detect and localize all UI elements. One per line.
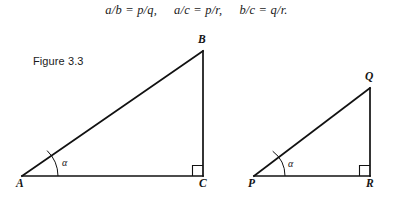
vertex-label-c: C [199,177,207,189]
vertex-label-q: Q [365,70,373,82]
vertex-label-a: A [16,177,24,189]
segment-a-to-b [22,51,203,176]
vertex-label-r: R [366,177,374,189]
triangles-drawing [0,0,393,198]
figure-diagram: a/b = p/q,a/c = p/r,b/c = q/r. Figure 3.… [0,0,393,198]
right-angle-marker-c [193,166,204,177]
angle-label-alpha-p: α [288,158,293,169]
triangle-abc-shape [22,51,203,176]
angle-label-alpha-a: α [62,157,67,168]
triangle-pqr-shape [254,88,370,176]
vertex-label-b: B [198,33,206,45]
vertex-label-p: P [248,177,255,189]
right-angle-marker-r [360,166,371,177]
segment-p-to-q [254,88,370,176]
